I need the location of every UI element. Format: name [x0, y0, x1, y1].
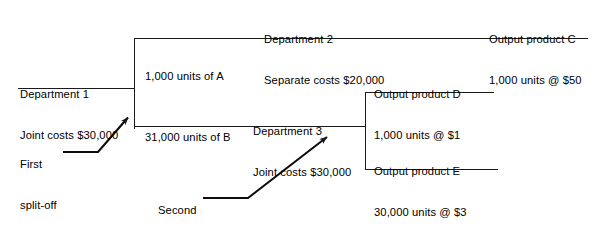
output-product-e-name: Output product E	[374, 165, 467, 179]
input-a-label: 1,000 units of A	[145, 43, 224, 111]
second-split-off-point-label: Second split-off point	[158, 177, 197, 229]
department-3-name: Department 3	[253, 125, 351, 139]
diagram-canvas: Department 2 Separate costs $20,000 Outp…	[0, 0, 595, 229]
input-b-units: 31,000 units of B	[145, 131, 231, 145]
input-a-units: 1,000 units of A	[145, 70, 224, 84]
input-b-label: 31,000 units of B	[145, 104, 231, 172]
department-2-name: Department 2	[264, 33, 384, 47]
first-split-off-line-1: First	[20, 158, 57, 172]
output-product-c-label: Output product C 1,000 units @ $50	[489, 6, 582, 114]
department-3-label: Department 3 Joint costs $30,000	[253, 98, 351, 206]
first-split-off-line-2: split-off	[20, 199, 57, 213]
output-product-e-units: 30,000 units @ $3	[374, 206, 467, 220]
second-split-off-line-1: Second	[158, 204, 197, 218]
department-2-costs: Separate costs $20,000	[264, 74, 384, 88]
department-1-name: Department 1	[20, 88, 118, 102]
output-product-c-units: 1,000 units @ $50	[489, 74, 582, 88]
output-product-e-label: Output product E 30,000 units @ $3	[374, 138, 467, 229]
first-split-off-point-label: First split-off point	[20, 131, 57, 229]
output-product-d-name: Output product D	[374, 88, 461, 102]
department-3-costs: Joint costs $30,000	[253, 166, 351, 180]
output-product-c-name: Output product C	[489, 33, 582, 47]
